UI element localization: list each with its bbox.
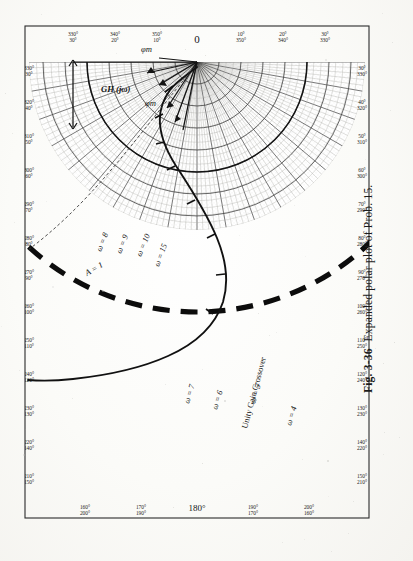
- transfer-function-label: GH (jω): [101, 84, 131, 94]
- angle-label-right-11: 140°220°: [357, 439, 367, 451]
- svg-text:340°: 340°: [278, 37, 288, 43]
- scan-speckle: [14, 222, 15, 223]
- angle-label-bottom-4: 160°200°: [80, 504, 90, 516]
- angle-label-top-1: 340°20°: [110, 31, 120, 43]
- svg-text:50°: 50°: [25, 139, 33, 145]
- scan-speckle: [282, 542, 283, 543]
- scan-speckle: [249, 84, 250, 85]
- phase-margin-lower-label: φm: [141, 44, 152, 54]
- angle-label-left-9: 240°120°: [24, 371, 34, 383]
- scan-speckle: [224, 400, 226, 402]
- scan-speckle: [216, 132, 217, 133]
- svg-text:130°: 130°: [24, 411, 34, 417]
- angle-label-left-10: 230°130°: [24, 405, 34, 417]
- scan-speckle: [276, 332, 277, 333]
- scan-speckle: [107, 125, 108, 126]
- omega-marker-15: ω = 15: [152, 242, 169, 267]
- omega-marker-10: ω = 10: [135, 233, 153, 258]
- scan-speckle: [38, 106, 40, 108]
- scan-speckle: [305, 256, 306, 257]
- svg-text:150°: 150°: [24, 479, 34, 485]
- angle-label-top-0: 330°30°: [68, 31, 78, 43]
- svg-text:80°: 80°: [25, 241, 33, 247]
- scan-speckle: [202, 369, 203, 370]
- svg-text:330°: 330°: [320, 37, 330, 43]
- unity-gain-crossover-label: Unity Gain Crossover: [240, 356, 268, 430]
- svg-text:320°: 320°: [357, 105, 367, 111]
- svg-text:40°: 40°: [25, 105, 33, 111]
- scan-speckle: [173, 507, 174, 508]
- angle-label-left-6: 270°90°: [24, 269, 34, 281]
- scan-speckle: [392, 42, 393, 43]
- angle-label-right-0: 30°330°: [357, 65, 367, 77]
- figure-page: 0 180° ω = 15 ω = 10 ω = 9 ω = 8 ω = 7 ω…: [0, 0, 413, 561]
- svg-text:230°: 230°: [357, 411, 367, 417]
- svg-text:170°: 170°: [248, 510, 258, 516]
- angle-label-bottom-0: 200°160°: [304, 504, 314, 516]
- omega-marker-7: ω = 7: [182, 382, 197, 404]
- angle-label-right-1: 40°320°: [357, 99, 367, 111]
- svg-text:220°: 220°: [357, 445, 367, 451]
- svg-text:140°: 140°: [24, 445, 34, 451]
- omega-marker-9: ω = 9: [115, 233, 131, 254]
- angle-label-left-2: 310°50°: [24, 133, 34, 145]
- svg-text:60°: 60°: [25, 173, 33, 179]
- scan-speckle: [172, 182, 173, 183]
- figure-caption-text: Expanded polar plot of Prob. 15.: [362, 185, 374, 342]
- svg-text:20°: 20°: [111, 37, 119, 43]
- axis-label-top-zero: 0: [194, 33, 200, 45]
- angle-label-left-8: 250°110°: [24, 337, 34, 349]
- angle-label-left-11: 220°140°: [24, 439, 34, 451]
- angle-label-left-0: 330°30°: [24, 65, 34, 77]
- angle-label-bottom-3: 170°190°: [136, 504, 146, 516]
- scan-speckle: [348, 533, 349, 534]
- angle-label-left-1: 320°40°: [24, 99, 34, 111]
- angle-label-top-2: 350°10°: [152, 31, 162, 43]
- angle-label-left-12: 210°150°: [24, 473, 34, 485]
- angle-label-left-3: 300°60°: [24, 167, 34, 179]
- angle-label-top-5: 20°340°: [278, 31, 288, 43]
- scan-speckle: [236, 187, 237, 188]
- svg-text:350°: 350°: [236, 37, 246, 43]
- axis-label-bottom-180: 180°: [188, 503, 206, 513]
- scan-speckle: [382, 13, 383, 14]
- angle-label-top-6: 30°330°: [320, 31, 330, 43]
- omega-marker-8: ω = 8: [95, 231, 111, 252]
- svg-text:160°: 160°: [304, 510, 314, 516]
- scan-speckle: [297, 117, 298, 118]
- svg-text:70°: 70°: [25, 207, 33, 213]
- angle-label-left-7: 260°100°: [24, 303, 34, 315]
- svg-text:90°: 90°: [25, 275, 33, 281]
- omega-marker-4: ω = 4: [284, 405, 298, 426]
- svg-text:190°: 190°: [136, 510, 146, 516]
- unity-gain-circle-label: A = 1: [82, 259, 105, 278]
- scan-speckle: [185, 49, 186, 50]
- scan-speckle: [384, 432, 385, 433]
- angle-label-left-5: 280°80°: [24, 235, 34, 247]
- svg-text:200°: 200°: [80, 510, 90, 516]
- angle-label-right-12: 150°210°: [357, 473, 367, 485]
- svg-text:30°: 30°: [25, 71, 33, 77]
- omega-marker-6: ω = 6: [210, 388, 225, 410]
- scan-speckle: [383, 454, 384, 455]
- polar-chart-plate: 0 180° ω = 15 ω = 10 ω = 9 ω = 8 ω = 7 ω…: [21, 22, 373, 522]
- figure-caption: Fig. 3-36Expanded polar plot of Prob. 15…: [362, 143, 374, 393]
- scan-speckle: [353, 501, 354, 502]
- svg-text:120°: 120°: [24, 377, 34, 383]
- angle-label-bottom-1: 190°170°: [248, 504, 258, 516]
- angle-label-left-4: 290°70°: [24, 201, 34, 213]
- phase-margin-upper-label: φm: [145, 98, 156, 108]
- svg-text:10°: 10°: [153, 37, 161, 43]
- angle-label-top-4: 10°350°: [236, 31, 246, 43]
- svg-text:330°: 330°: [357, 71, 367, 77]
- svg-text:100°: 100°: [24, 309, 34, 315]
- scan-speckle: [294, 205, 295, 206]
- scan-speckle: [76, 100, 77, 101]
- svg-text:110°: 110°: [24, 343, 34, 349]
- svg-text:210°: 210°: [357, 479, 367, 485]
- scan-speckle: [394, 342, 395, 343]
- scan-speckle: [23, 454, 25, 456]
- svg-text:30°: 30°: [69, 37, 77, 43]
- figure-number: Fig. 3-36: [362, 348, 374, 393]
- scan-speckle: [325, 59, 327, 61]
